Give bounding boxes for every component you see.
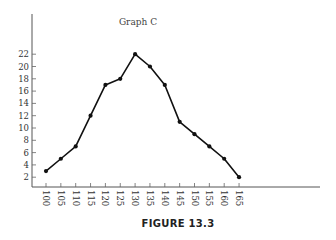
y-tick-label: 10 [18,123,29,133]
x-tick-label: 140 [160,190,170,206]
x-tick-label: 160 [219,190,229,206]
x-tick-label: 135 [145,190,155,206]
data-point [148,64,152,68]
data-markers [44,52,241,179]
y-tick-label: 14 [18,98,29,108]
data-point [222,157,226,161]
data-point [207,144,211,148]
data-point [133,52,137,56]
x-tick-labels: 1001051101151201251301351401451501551601… [41,183,244,206]
data-point [59,157,63,161]
y-tick-label: 8 [24,135,29,145]
y-tick-label: 12 [18,111,29,121]
x-tick-label: 110 [71,190,81,206]
data-point [74,144,78,148]
y-tick-label: 22 [18,49,29,59]
data-point [118,77,122,81]
data-line [46,54,239,177]
data-point [192,132,196,136]
y-tick-label: 2 [24,172,29,182]
x-tick-label: 150 [190,190,200,206]
y-tick-label: 16 [18,86,29,96]
x-tick-label: 100 [41,190,51,206]
data-point [178,120,182,124]
x-tick-label: 145 [175,190,185,206]
figure-caption: FIGURE 13.3 [0,218,336,229]
line-chart: Graph C 246810121416182022 1001051101151… [0,0,336,240]
y-tick-label: 4 [24,160,29,170]
chart-title: Graph C [119,17,157,27]
x-tick-label: 105 [56,190,66,206]
data-point [237,175,241,179]
data-point [44,169,48,173]
data-point [103,83,107,87]
data-point [163,83,167,87]
y-tick-label: 18 [18,74,29,84]
x-tick-label: 125 [115,190,125,206]
data-point [88,114,92,118]
x-tick-label: 130 [130,190,140,206]
y-tick-labels: 246810121416182022 [18,49,36,182]
x-tick-label: 165 [234,190,244,206]
y-tick-label: 6 [24,148,29,158]
x-tick-label: 115 [86,190,96,206]
y-tick-label: 20 [18,62,29,72]
x-tick-label: 155 [204,190,214,206]
x-tick-label: 120 [100,190,110,206]
